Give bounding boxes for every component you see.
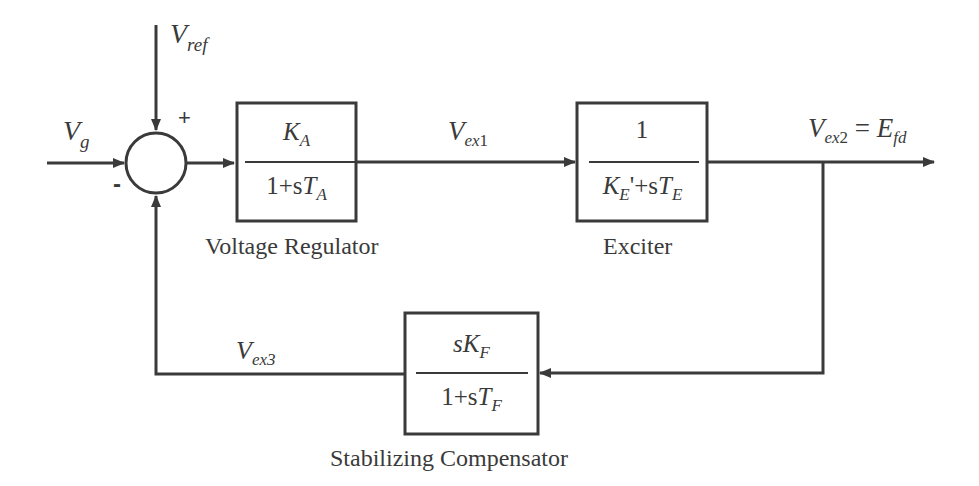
vex3-feedback-arrow [156, 196, 405, 374]
stabilizing-compensator-caption: Stabilizing Compensator [330, 445, 568, 472]
summing-junction [126, 133, 186, 193]
vex1-label: Vex1 [448, 116, 488, 151]
voltage-regulator-numerator: KA [245, 118, 348, 151]
vex2-efd-label: Vex2 = Efd [808, 113, 907, 148]
stabilizing-compensator-numerator: sKF [413, 330, 530, 363]
exciter-caption: Exciter [603, 233, 672, 260]
plus-sign: + [178, 105, 191, 131]
voltage-regulator-caption: Voltage Regulator [205, 233, 379, 260]
exciter-denominator: KE'+sTE [585, 172, 700, 205]
minus-sign: - [113, 170, 121, 198]
stabilizing-compensator-fraction-bar [416, 372, 528, 374]
voltage-regulator-fraction-bar [245, 161, 355, 163]
vg-label: Vg [63, 115, 90, 153]
exciter-fraction-bar [589, 161, 699, 163]
vex3-label: Vex3 [236, 336, 275, 370]
exciter-numerator: 1 [587, 116, 697, 144]
vref-label: Vref [170, 18, 208, 56]
voltage-regulator-denominator: 1+sTA [245, 172, 348, 205]
stabilizing-compensator-denominator: 1+sTF [413, 383, 530, 416]
